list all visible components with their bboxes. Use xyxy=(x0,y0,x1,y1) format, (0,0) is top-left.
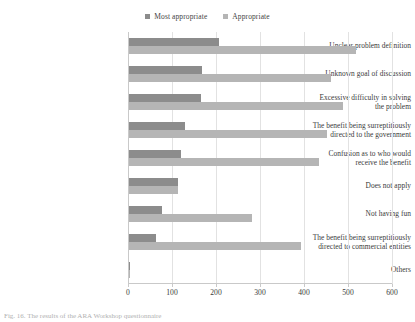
x-tick-mark xyxy=(216,284,217,287)
bar-appropriate xyxy=(129,102,343,110)
bar-most-appropriate xyxy=(129,122,185,130)
bar-appropriate xyxy=(129,46,356,54)
x-tick-label: 100 xyxy=(166,288,177,297)
bar-row xyxy=(129,66,392,82)
chart-figure: Most appropriate Appropriate Unclear pro… xyxy=(0,0,415,322)
bar-row xyxy=(129,206,392,222)
x-tick-mark xyxy=(172,284,173,287)
x-tick-mark xyxy=(304,284,305,287)
bar-row xyxy=(129,178,392,194)
bar-row xyxy=(129,234,392,250)
bar-appropriate xyxy=(129,214,252,222)
bar-appropriate xyxy=(129,270,130,278)
bar-most-appropriate xyxy=(129,178,178,186)
legend-label-appropriate: Appropriate xyxy=(232,12,269,21)
figure-caption: Fig. 16. The results of the ARA Workshop… xyxy=(4,312,412,322)
bar-appropriate xyxy=(129,130,327,138)
bar-most-appropriate xyxy=(129,94,201,102)
bar-most-appropriate xyxy=(129,150,181,158)
x-tick-label: 300 xyxy=(254,288,265,297)
legend-item-appropriate: Appropriate xyxy=(223,12,269,21)
legend-swatch-most-appropriate xyxy=(145,14,150,19)
x-tick-mark xyxy=(392,284,393,287)
x-tick-label: 400 xyxy=(298,288,309,297)
bar-row xyxy=(129,38,392,54)
bar-most-appropriate xyxy=(129,66,202,74)
x-tick-label: 200 xyxy=(210,288,221,297)
bar-row xyxy=(129,94,392,110)
bar-most-appropriate xyxy=(129,38,219,46)
legend-swatch-appropriate xyxy=(223,14,228,19)
x-tick-mark xyxy=(348,284,349,287)
legend-label-most-appropriate: Most appropriate xyxy=(154,12,207,21)
x-tick-label: 600 xyxy=(386,288,397,297)
legend-item-most-appropriate: Most appropriate xyxy=(145,12,207,21)
bar-row xyxy=(129,262,392,278)
bar-most-appropriate xyxy=(129,234,156,242)
x-tick-label: 0 xyxy=(126,288,130,297)
x-tick-mark xyxy=(128,284,129,287)
bar-appropriate xyxy=(129,186,178,194)
gridline xyxy=(392,32,393,284)
plot-area xyxy=(128,32,392,284)
bar-row xyxy=(129,122,392,138)
bar-most-appropriate xyxy=(129,206,162,214)
chart-legend: Most appropriate Appropriate xyxy=(0,12,415,21)
bar-appropriate xyxy=(129,242,301,250)
bar-row xyxy=(129,150,392,166)
bar-most-appropriate xyxy=(129,262,130,270)
bar-appropriate xyxy=(129,158,319,166)
bar-appropriate xyxy=(129,74,331,82)
x-tick-mark xyxy=(260,284,261,287)
x-tick-label: 500 xyxy=(342,288,353,297)
